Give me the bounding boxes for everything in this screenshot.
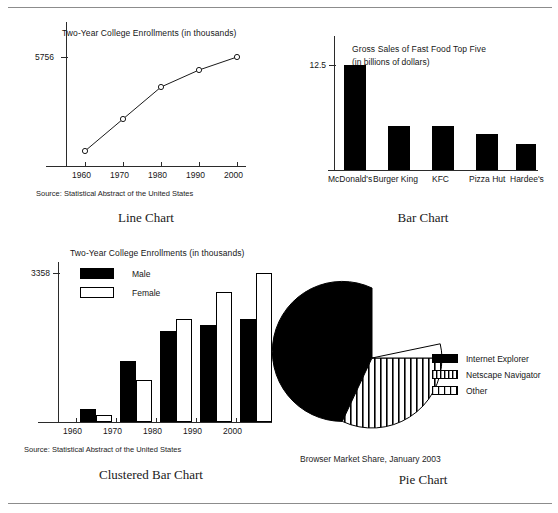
- bar-chart-x-label-3: KFC: [432, 174, 449, 184]
- bar-pizza-hut: [476, 134, 498, 170]
- bar-chart-caption: Bar Chart: [292, 210, 554, 226]
- clustered-bar-male-1970: [120, 361, 136, 422]
- clustered-bar-male-1990: [200, 325, 216, 422]
- clustered-x-tick-4: [196, 418, 197, 423]
- clustered-bar-chart-y-top-label: 3358: [10, 268, 50, 278]
- bar-chart-panel: Gross Sales of Fast Food Top Five (in bi…: [292, 14, 554, 219]
- clustered-bar-chart-y-tick: [53, 273, 60, 274]
- clustered-x-label-5: 2000: [223, 426, 242, 436]
- clustered-bar-male-1960: [80, 409, 96, 422]
- pie-chart-caption: Pie Chart: [292, 472, 554, 488]
- bar-chart-x-axis: [328, 170, 538, 171]
- clustered-legend-label-male: Male: [132, 269, 150, 279]
- clustered-x-label-1: 1960: [63, 426, 82, 436]
- bar-kfc: [432, 126, 454, 170]
- bar-hardees: [516, 144, 536, 170]
- pie-legend-label-other: Other: [466, 386, 487, 396]
- top-divider-rule: [8, 7, 552, 8]
- pie-legend-swatch-netscape-navigator: [432, 370, 458, 379]
- line-chart-x-label-4: 1990: [186, 170, 205, 180]
- clustered-bar-male-1980: [160, 331, 176, 422]
- pie-legend-swatch-internet-explorer: [432, 354, 458, 363]
- clustered-x-tick-5: [236, 418, 237, 423]
- clustered-bar-chart-caption: Clustered Bar Chart: [10, 467, 292, 483]
- clustered-bar-chart-y-axis: [58, 262, 59, 422]
- line-chart-x-label-2: 1970: [110, 170, 129, 180]
- clustered-bar-chart-panel: Two-Year College Enrollments (in thousan…: [10, 234, 292, 496]
- clustered-legend-label-female: Female: [132, 288, 160, 298]
- clustered-bar-female-1960: [96, 415, 112, 422]
- clustered-x-label-4: 1990: [183, 426, 202, 436]
- line-chart-x-label-3: 1980: [148, 170, 167, 180]
- clustered-bar-chart-title: Two-Year College Enrollments (in thousan…: [70, 248, 245, 258]
- figure-page: Two-Year College Enrollments (in thousan…: [0, 0, 558, 513]
- pie-legend-label-internet-explorer: Internet Explorer: [466, 354, 529, 364]
- line-chart-x-label-5: 2000: [224, 170, 243, 180]
- bar-burger-king: [388, 126, 410, 170]
- clustered-x-tick-2: [116, 418, 117, 423]
- line-chart-panel: Two-Year College Enrollments (in thousan…: [10, 14, 282, 219]
- bar-chart-y-axis: [334, 36, 335, 170]
- pie-legend-label-netscape-navigator: Netscape Navigator: [466, 370, 541, 380]
- bar-chart-y-tick: [329, 65, 336, 66]
- clustered-bar-female-1980: [176, 319, 192, 422]
- pie-legend-swatch-other: [432, 386, 458, 395]
- bottom-divider-rule: [8, 503, 552, 504]
- bar-chart-x-label-1: McDonald's: [328, 174, 372, 184]
- clustered-bar-female-2000: [256, 273, 272, 422]
- clustered-bar-female-1990: [216, 292, 232, 422]
- clustered-x-tick-3: [156, 418, 157, 423]
- line-chart-caption: Line Chart: [10, 210, 282, 226]
- bar-chart-x-label-5: Hardee's: [510, 174, 544, 184]
- bar-chart-title: Gross Sales of Fast Food Top Five: [352, 44, 486, 54]
- line-chart-source-note: Source: Statistical Abstract of the Unit…: [36, 189, 193, 198]
- clustered-legend-swatch-female: [80, 287, 114, 298]
- clustered-bar-male-2000: [240, 319, 256, 422]
- clustered-bar-female-1970: [136, 380, 152, 422]
- clustered-x-label-3: 1980: [143, 426, 162, 436]
- bar-chart-y-top-label: 12.5: [292, 60, 326, 70]
- pie-chart-panel: Internet Explorer Netscape Navigator Oth…: [292, 286, 554, 496]
- pie-chart-source-note: Browser Market Share, January 2003: [300, 454, 441, 464]
- pie-chart-graphic: [302, 288, 442, 428]
- line-chart-x-label-1: 1960: [72, 170, 91, 180]
- clustered-bar-chart-source-note: Source: Statistical Abstract of the Unit…: [24, 445, 181, 454]
- bar-chart-x-label-2: Burger King: [373, 174, 418, 184]
- bar-mcdonalds: [344, 65, 366, 170]
- clustered-x-label-2: 1970: [103, 426, 122, 436]
- clustered-legend-swatch-male: [80, 268, 114, 279]
- clustered-x-tick-1: [76, 418, 77, 423]
- bar-chart-x-label-4: Pizza Hut: [469, 174, 505, 184]
